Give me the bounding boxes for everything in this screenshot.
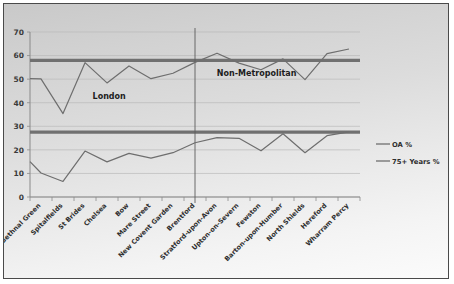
y-axis-label-40: 40 — [14, 99, 24, 108]
x-axis-label-chelsea: Chelsea — [82, 202, 108, 228]
y-axis-label-60: 60 — [14, 51, 24, 60]
x-axis-label-wharram-percy: Wharram Percy — [304, 201, 351, 248]
y-axis-label-30: 30 — [14, 122, 24, 131]
y-axis-label-70: 70 — [14, 28, 24, 37]
series-line-seventyfive-plus-percent — [30, 132, 349, 182]
x-axis-label-bow: Bow — [114, 202, 131, 219]
y-axis-label-20: 20 — [14, 146, 24, 155]
annotation-london: London — [93, 92, 127, 101]
annotation-non-metropolitan: Non-Metropolitan — [217, 69, 297, 78]
y-axis-label-10: 10 — [14, 169, 24, 178]
legend-label-oa-percent: OA % — [392, 141, 412, 149]
line-chart: 010203040506070Bethnal GreenSpitalfields… — [4, 4, 450, 280]
legend-label-seventyfive-plus-percent: 75+ Years % — [392, 158, 440, 166]
y-axis-label-50: 50 — [14, 75, 24, 84]
series-line-oa-percent — [30, 49, 349, 114]
chart-container: 010203040506070Bethnal GreenSpitalfields… — [3, 3, 449, 279]
y-axis-label-0: 0 — [19, 193, 24, 202]
